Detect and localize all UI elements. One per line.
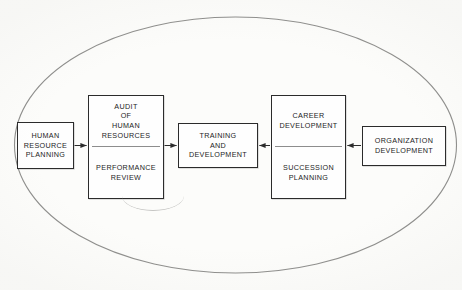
node-label-line: CAREER [292, 111, 324, 121]
node-section-audit: AUDIT OF HUMAN RESOURCES [89, 96, 163, 146]
node-label-line: RESOURCE [24, 141, 68, 151]
node-label-line: PLANNING [289, 173, 329, 183]
node-label-line: HUMAN [31, 131, 59, 141]
node-human-resource-planning[interactable]: HUMAN RESOURCE PLANNING [17, 122, 74, 169]
node-label-line: DEVELOPMENT [375, 146, 433, 156]
node-section-performance-review: PERFORMANCE REVIEW [89, 147, 163, 198]
node-career-development[interactable]: CAREER DEVELOPMENT SUCCESSION PLANNING [271, 95, 346, 199]
node-label-line: DEVELOPMENT [279, 121, 337, 131]
node-label-line: OF [121, 111, 132, 121]
node-label-line: SUCCESSION [283, 163, 334, 173]
node-audit-of-human-resources[interactable]: AUDIT OF HUMAN RESOURCES PERFORMANCE REV… [88, 95, 164, 199]
node-label-line: PERFORMANCE [96, 163, 156, 173]
node-label-line: ORGANIZATION [375, 136, 433, 146]
node-label-line: PLANNING [26, 150, 66, 160]
node-label-line: HUMAN [112, 121, 140, 131]
node-label-line: DEVELOPMENT [189, 150, 247, 160]
node-label-line: TRAINING [199, 131, 236, 141]
node-label-line: RESOURCES [102, 131, 151, 141]
node-organization-development[interactable]: ORGANIZATION DEVELOPMENT [362, 126, 446, 166]
node-label-line: AND [210, 141, 226, 151]
node-section-career-development: CAREER DEVELOPMENT [272, 96, 345, 146]
node-section-succession-planning: SUCCESSION PLANNING [272, 147, 345, 198]
node-label-line: AUDIT [114, 102, 137, 112]
node-label-line: REVIEW [111, 173, 141, 183]
node-training-and-development[interactable]: TRAINING AND DEVELOPMENT [178, 123, 258, 168]
